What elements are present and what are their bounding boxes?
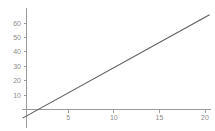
x-tick-label-15: 15 xyxy=(156,114,164,121)
y-tick-label-40: 40 xyxy=(13,48,21,55)
y-tick-label-20: 20 xyxy=(13,77,21,84)
chart-background xyxy=(0,0,215,131)
x-tick-label-5: 5 xyxy=(66,114,70,121)
x-tick-label-10: 10 xyxy=(110,114,118,121)
y-tick-label-50: 50 xyxy=(13,34,21,41)
y-tick-label-30: 30 xyxy=(13,63,21,70)
y-tick-label-10: 10 xyxy=(13,92,21,99)
y-tick-label-60: 60 xyxy=(13,20,21,27)
chart-container: 10 20 30 40 50 60 5 10 15 20 xyxy=(0,0,215,131)
line-chart: 10 20 30 40 50 60 5 10 15 20 xyxy=(0,0,215,131)
x-tick-label-20: 20 xyxy=(201,114,209,121)
